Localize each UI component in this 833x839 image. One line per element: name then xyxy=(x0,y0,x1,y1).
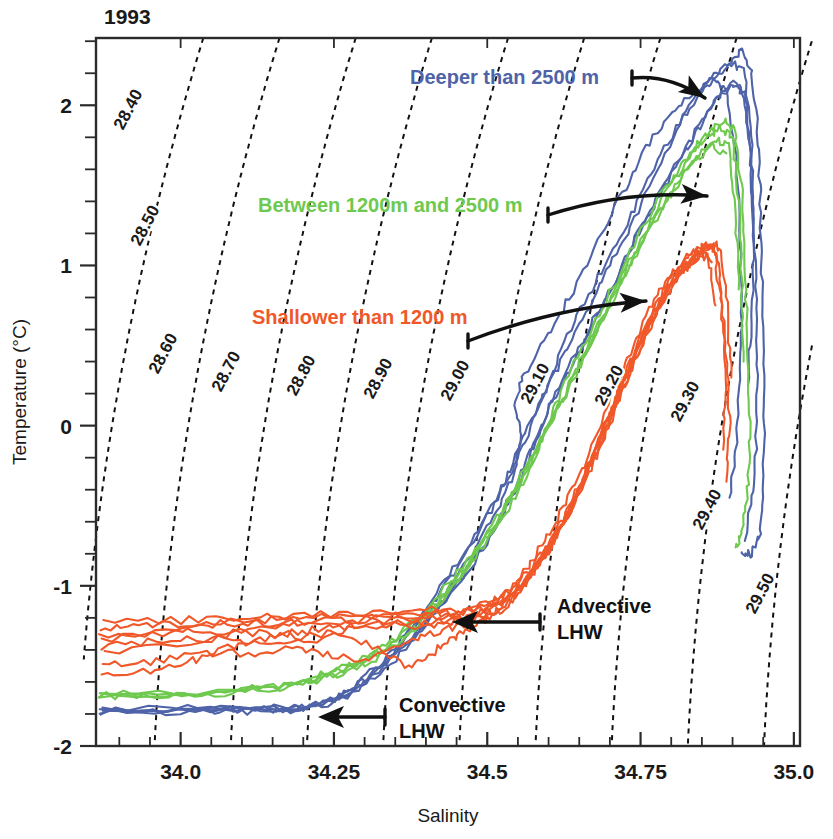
svg-text:29.40: 29.40 xyxy=(689,486,726,532)
annotation-1-line1: Convective xyxy=(399,694,506,716)
isopycnal-label-28.60: 28.6028.60 xyxy=(145,330,182,376)
ytick-label: -2 xyxy=(53,735,72,758)
ytick-label: 0 xyxy=(60,415,72,438)
isopycnal-label-29.30: 29.3029.30 xyxy=(667,378,704,424)
svg-text:29.30: 29.30 xyxy=(667,378,704,424)
data-traces xyxy=(99,49,765,716)
ytick-label: 2 xyxy=(60,94,72,117)
isopycnal-label-28.70: 28.7028.70 xyxy=(208,348,245,394)
svg-text:28.80: 28.80 xyxy=(283,352,320,398)
y-axis-title: Temperature (°C) xyxy=(9,319,30,465)
svg-text:28.50: 28.50 xyxy=(127,202,164,248)
xtick-label: 34.0 xyxy=(160,760,201,783)
isopycnal-label-29.40: 29.4029.40 xyxy=(689,486,726,532)
arrow-mid-shaft xyxy=(548,195,707,215)
legend-label-1: Between 1200m and 2500 m xyxy=(258,194,523,216)
isopycnal-29.30 xyxy=(764,346,812,747)
svg-text:29.00: 29.00 xyxy=(437,357,474,403)
xtick-label: 34.5 xyxy=(467,760,508,783)
legend-label-0: Deeper than 2500 m xyxy=(410,66,599,88)
svg-text:28.70: 28.70 xyxy=(208,348,245,394)
annotation-0-line1: Advective xyxy=(557,595,652,617)
legend-label-2: Shallower than 1200 m xyxy=(252,306,468,328)
year-label: 1993 xyxy=(104,5,151,28)
xtick-label: 34.75 xyxy=(614,760,667,783)
ts-diagram: 28.4028.4028.5028.5028.6028.6028.7028.70… xyxy=(0,0,833,839)
xtick-label: 35.0 xyxy=(773,760,814,783)
isopycnal-label-29.00: 29.0029.00 xyxy=(437,357,474,403)
svg-text:28.60: 28.60 xyxy=(145,330,182,376)
isopycnal-label-28.90: 28.9028.90 xyxy=(360,355,397,401)
svg-text:29.50: 29.50 xyxy=(742,570,779,616)
isopycnal-label-28.50: 28.5028.50 xyxy=(127,202,164,248)
isopycnal-label-28.80: 28.8028.80 xyxy=(283,352,320,398)
isopycnal-label-28.40: 28.4028.40 xyxy=(110,86,147,132)
x-axis-title: Salinity xyxy=(417,805,479,826)
figure-root: 28.4028.4028.5028.5028.6028.6028.7028.70… xyxy=(0,0,833,839)
annotation-1-line2: LHW xyxy=(399,720,445,742)
svg-text:28.40: 28.40 xyxy=(110,86,147,132)
isopycnal-28.40 xyxy=(84,38,204,660)
isopycnal-label-29.50: 29.5029.50 xyxy=(742,570,779,616)
isopycnal-labels: 28.4028.4028.5028.5028.6028.6028.7028.70… xyxy=(110,86,779,616)
ytick-label: 1 xyxy=(60,254,72,277)
svg-text:28.90: 28.90 xyxy=(360,355,397,401)
xtick-label: 34.25 xyxy=(308,760,361,783)
annotation-0-line2: LHW xyxy=(557,621,603,643)
ytick-label: -1 xyxy=(53,575,72,598)
